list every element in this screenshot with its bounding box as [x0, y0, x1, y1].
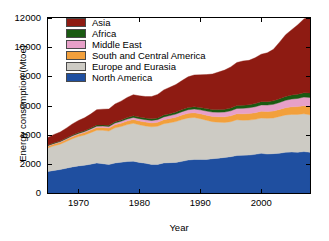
legend-label: Middle East — [92, 40, 142, 50]
y-tick-mark — [48, 164, 52, 165]
x-tick-label: 1970 — [53, 198, 103, 208]
y-tick-mark — [48, 193, 52, 194]
y-tick-mark — [48, 47, 52, 48]
y-tick-mark — [48, 135, 52, 136]
y-tick-mark — [48, 76, 52, 77]
x-tick-mark — [139, 189, 140, 193]
y-tick-mark-right — [306, 47, 310, 48]
y-tick-mark-right — [306, 164, 310, 165]
legend-swatch-icon — [66, 40, 86, 49]
legend-swatch-icon — [66, 29, 86, 38]
legend-swatch-icon — [66, 51, 86, 60]
legend-item: Europe and Eurasia — [66, 61, 236, 72]
y-tick-label: 0 — [0, 188, 41, 198]
x-axis-title: Year — [47, 222, 311, 233]
y-tick-mark-right — [306, 18, 310, 19]
legend-label: North America — [92, 73, 152, 83]
chart-legend: AsiaAfricaMiddle EastSouth and Central A… — [66, 17, 236, 83]
legend-label: Africa — [92, 29, 116, 39]
legend-item: Asia — [66, 17, 236, 28]
x-tick-label: 1990 — [175, 198, 225, 208]
y-tick-label: 8000 — [0, 71, 41, 81]
x-tick-label: 1980 — [114, 198, 164, 208]
y-tick-mark — [48, 18, 52, 19]
y-tick-mark-right — [306, 76, 310, 77]
y-tick-label: 2000 — [0, 159, 41, 169]
legend-item: South and Central America — [66, 50, 236, 61]
x-tick-mark — [200, 189, 201, 193]
x-tick-mark — [261, 189, 262, 193]
x-tick-label: 2000 — [236, 198, 286, 208]
x-tick-mark — [78, 189, 79, 193]
y-tick-mark — [48, 106, 52, 107]
legend-label: Europe and Eurasia — [92, 62, 176, 72]
x-tick-mark-top — [261, 18, 262, 22]
y-tick-label: 12000 — [0, 13, 41, 23]
legend-item: Middle East — [66, 39, 236, 50]
legend-label: South and Central America — [92, 51, 206, 61]
legend-swatch-icon — [66, 73, 86, 82]
y-tick-label: 6000 — [0, 101, 41, 111]
y-tick-mark-right — [306, 106, 310, 107]
y-tick-label: 4000 — [0, 130, 41, 140]
y-tick-label: 10000 — [0, 42, 41, 52]
legend-item: Africa — [66, 28, 236, 39]
energy-consumption-chart: Energy consumption (Mtoe) 02000400060008… — [0, 0, 329, 241]
y-tick-mark-right — [306, 135, 310, 136]
y-tick-mark-right — [306, 193, 310, 194]
legend-swatch-icon — [66, 18, 86, 27]
legend-label: Asia — [92, 18, 110, 28]
legend-swatch-icon — [66, 62, 86, 71]
legend-item: North America — [66, 72, 236, 83]
